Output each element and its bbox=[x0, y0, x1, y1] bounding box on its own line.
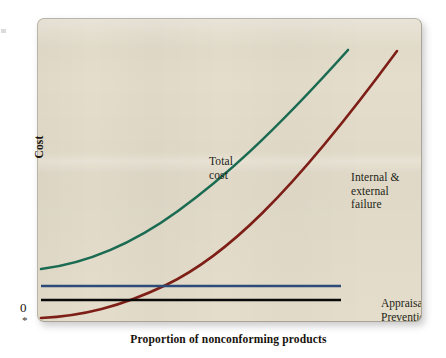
plot-panel: Total cost Internal & external failure A… bbox=[37, 18, 422, 322]
origin-asterisk-marker: * bbox=[22, 316, 28, 324]
annotation-total-cost-line-1: Total bbox=[209, 155, 233, 169]
x-axis-label: Proportion of nonconforming products bbox=[37, 333, 420, 345]
y-axis-label: Cost bbox=[33, 117, 49, 177]
page-edge-artifact bbox=[1, 29, 6, 33]
series-line-total-cost bbox=[41, 50, 348, 269]
cost-of-quality-chart-figure: Total cost Internal & external failure A… bbox=[0, 0, 446, 358]
annotation-failure-line-2: external bbox=[351, 185, 400, 199]
annotation-total-cost-line-2: cost bbox=[209, 169, 233, 183]
annotation-failure: Internal & external failure bbox=[351, 171, 400, 212]
legend-label-prevention: Prevention bbox=[381, 311, 422, 322]
annotation-total-cost: Total cost bbox=[209, 155, 233, 182]
annotation-failure-line-1: Internal & bbox=[351, 171, 400, 185]
annotation-failure-line-3: failure bbox=[351, 198, 400, 212]
legend-label-appraisal: Appraisal bbox=[381, 297, 422, 310]
series-line-failure bbox=[41, 51, 397, 318]
